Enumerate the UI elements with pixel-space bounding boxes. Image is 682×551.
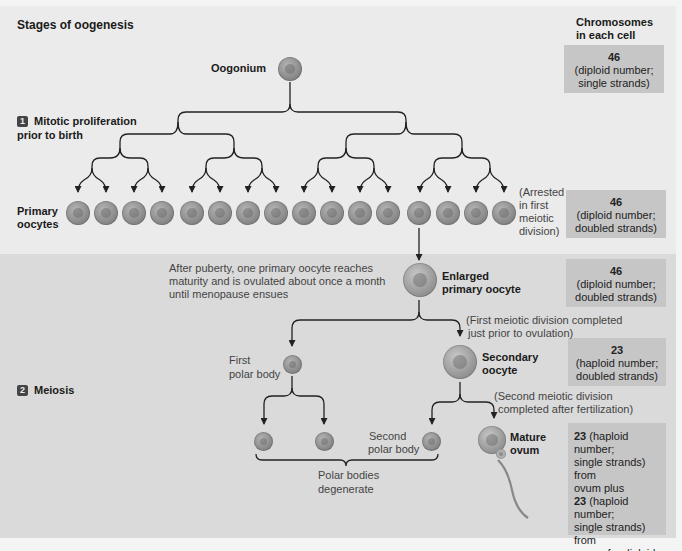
sperm-head [496,449,506,459]
polar-body-cell [254,432,273,451]
oogonium-label: Oogonium [211,62,266,75]
polar-body-cell [315,432,334,451]
puberty-note-1: After puberty, one primary oocyte reache… [169,262,373,275]
chromosome-box-primary: 46 (diploid number; doubled strands) [566,190,666,238]
second-meiotic-note-2: completed after fertilization) [498,403,633,416]
primary-oocyte [66,201,90,225]
figure-title: Stages of oogenesis [17,19,134,32]
primary-oocytes-label-line2: oocytes [17,218,59,231]
secondary-label-2: oocyte [482,364,517,377]
primary-oocyte [208,201,232,225]
primary-oocyte [292,201,316,225]
second-polar-body-cell [422,432,441,451]
chromosome-box-mature-ovum: 23 (haploid number; single strands) from… [568,423,666,535]
first-meiotic-note-1: (First meiotic division completed [466,314,623,327]
arrested-note-2: in first [519,199,548,212]
first-polar-label-1: First [229,354,250,367]
stage-1-label-line2: prior to birth [17,129,83,142]
enlarged-label-1: Enlarged [442,270,489,283]
primary-oocytes-label-line1: Primary [17,205,58,218]
mature-label-2: ovum [510,444,539,457]
primary-oocyte [436,201,460,225]
arrested-note-1: (Arrested [519,186,564,199]
puberty-note-3: until menopause ensues [169,288,288,301]
stage-2-label: 2Meiosis [17,384,74,397]
primary-oocyte [348,201,372,225]
first-polar-body-cell [283,355,302,374]
secondary-oocyte-cell [443,345,477,379]
primary-oocyte [122,201,146,225]
stage-1-badge: 1 [17,116,28,127]
mature-label-1: Mature [510,431,546,444]
primary-oocyte [236,201,260,225]
primary-oocyte [320,201,344,225]
puberty-note-2: maturity and is ovulated about once a mo… [169,275,385,288]
first-polar-label-2: polar body [229,368,280,381]
chromosome-box-secondary: 23 (haploid number; doubled strands) [568,338,666,386]
second-meiotic-note-1: (Second meiotic division [494,390,613,403]
stage-1-label: 1Mitotic proliferation [17,115,137,128]
primary-oocyte [464,201,488,225]
polar-degenerate-1: Polar bodies [318,469,379,482]
column-header-line1: Chromosomes [576,16,653,29]
stage-2-badge: 2 [17,385,28,396]
primary-oocyte [180,201,204,225]
arrested-note-4: division) [519,225,559,238]
chromosome-box-enlarged: 46 (diploid number; doubled strands) [566,259,666,307]
second-polar-label-1: Second [369,430,406,443]
column-header-line2: in each cell [576,29,635,42]
primary-oocyte [94,201,118,225]
first-meiotic-note-2: just prior to ovulation) [468,327,573,340]
primary-oocyte [264,201,288,225]
chromosome-box-oogonium: 46 (diploid number; single strands) [564,45,664,93]
oogonium-cell [278,57,302,81]
primary-oocyte [376,201,400,225]
primary-oocyte [150,201,174,225]
secondary-label-1: Secondary [482,351,538,364]
primary-oocyte-selected [407,201,431,225]
enlarged-primary-oocyte-cell [403,263,437,297]
second-polar-label-2: polar body [368,443,419,456]
enlarged-label-2: primary oocyte [442,283,521,296]
arrested-note-3: meiotic [519,212,554,225]
primary-oocyte [492,201,516,225]
polar-degenerate-2: degenerate [318,483,374,496]
